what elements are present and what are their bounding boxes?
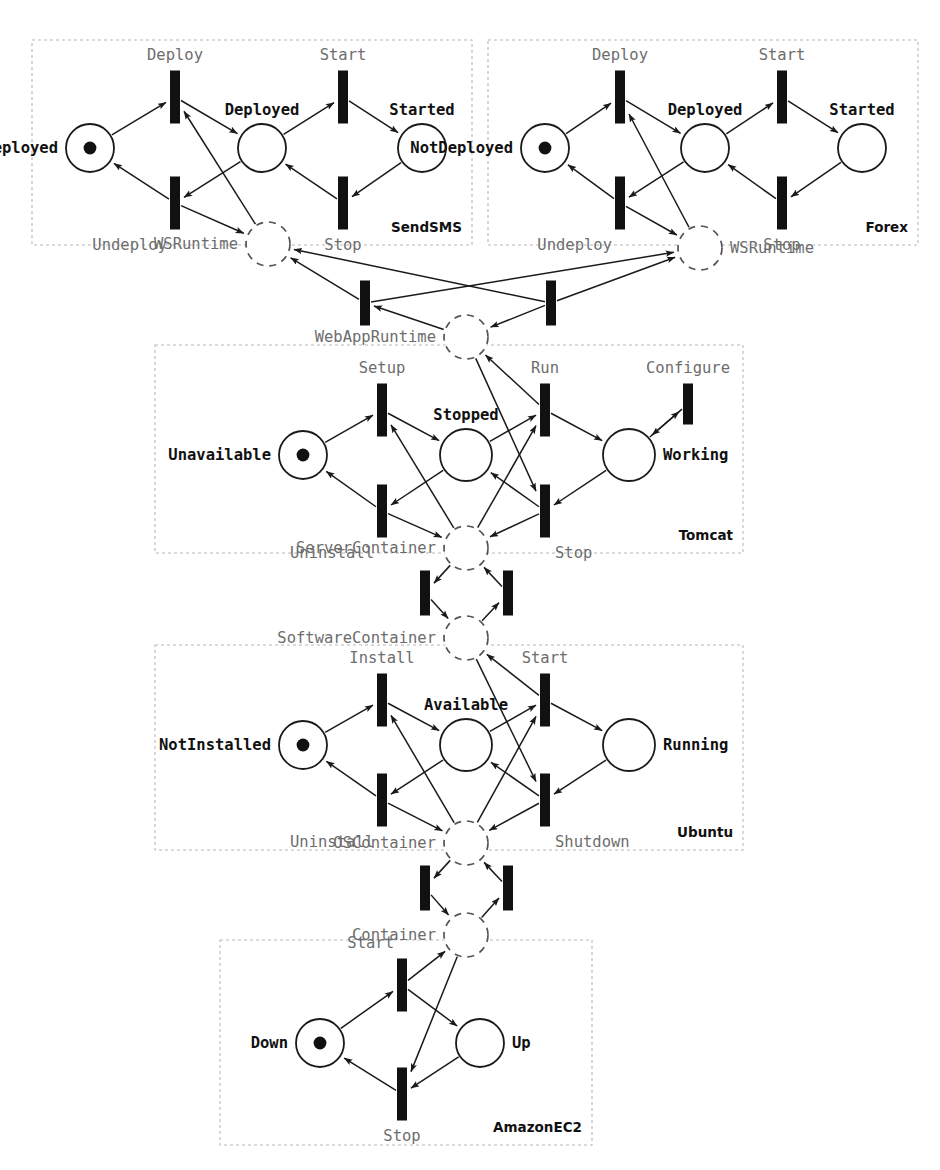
transition-war_right[interactable]	[547, 281, 556, 325]
arc-ub_uninstall-to-ub_notinstalled	[326, 761, 376, 796]
place-fx_started[interactable]	[838, 124, 886, 172]
token-sms_notdeployed	[84, 142, 97, 155]
place-label-sms_notdeployed: NotDeployed	[0, 139, 58, 157]
virtual-place-circle-servercontainer[interactable]	[444, 526, 488, 570]
transition-tc_run[interactable]	[541, 384, 550, 436]
transition-bar-oc_right[interactable]	[504, 866, 513, 910]
transition-bar-sms_start[interactable]	[339, 71, 348, 123]
place-ub_notinstalled[interactable]	[279, 721, 327, 769]
transition-bar-tc_setup[interactable]	[378, 384, 387, 436]
transition-sms_start[interactable]	[339, 71, 348, 123]
arc-sms_notdeployed-to-sms_deploy	[112, 102, 166, 134]
place-servercontainer[interactable]	[444, 526, 488, 570]
transition-sms_undeploy[interactable]	[171, 177, 180, 229]
place-container[interactable]	[444, 913, 488, 957]
arc-fx_undeploy-to-fx_wsruntime	[626, 206, 677, 235]
virtual-place-circle-webappruntime[interactable]	[444, 315, 488, 359]
transition-fx_stop[interactable]	[778, 177, 787, 229]
transition-bar-tc_stop[interactable]	[541, 485, 550, 537]
arc-tc_stopped-to-tc_uninstall	[391, 470, 443, 505]
place-fx_deployed[interactable]	[681, 124, 729, 172]
virtual-place-circle-fx_wsruntime[interactable]	[678, 226, 722, 270]
transition-bar-ub_install[interactable]	[378, 674, 387, 726]
place-sms_notdeployed[interactable]	[66, 124, 114, 172]
place-circle-ub_available[interactable]	[440, 719, 492, 771]
transition-oc_left[interactable]	[421, 866, 430, 910]
transition-sms_stop[interactable]	[339, 177, 348, 229]
place-fx_notdeployed[interactable]	[521, 124, 569, 172]
transition-bar-sms_stop[interactable]	[339, 177, 348, 229]
transition-oc_right[interactable]	[504, 866, 513, 910]
transition-bar-fx_undeploy[interactable]	[616, 177, 625, 229]
place-softwarecontainer[interactable]	[444, 616, 488, 660]
transition-tc_uninstall[interactable]	[378, 485, 387, 537]
place-circle-fx_started[interactable]	[838, 124, 886, 172]
transition-bar-oc_left[interactable]	[421, 866, 430, 910]
transition-tc_setup[interactable]	[378, 384, 387, 436]
transition-sms_deploy[interactable]	[171, 71, 180, 123]
transition-bar-war_right[interactable]	[547, 281, 556, 325]
transition-ub_uninstall[interactable]	[378, 774, 387, 826]
place-circle-tc_stopped[interactable]	[440, 429, 492, 481]
place-label-ec2_up: Up	[512, 1034, 531, 1052]
place-circle-tc_working[interactable]	[603, 429, 655, 481]
transition-bar-sc_left[interactable]	[421, 571, 430, 615]
arc-sms_stop-to-sms_deployed	[286, 164, 337, 199]
transition-bar-sms_undeploy[interactable]	[171, 177, 180, 229]
transition-label-fx_deploy: Deploy	[592, 46, 648, 64]
virtual-place-circle-oscontainer[interactable]	[444, 821, 488, 865]
place-oscontainer[interactable]	[444, 821, 488, 865]
place-tc_stopped[interactable]	[440, 429, 492, 481]
place-sms_deployed[interactable]	[238, 124, 286, 172]
transition-bar-ub_uninstall[interactable]	[378, 774, 387, 826]
transition-bar-ub_shutdown[interactable]	[541, 774, 550, 826]
place-ub_running[interactable]	[603, 719, 655, 771]
arc-sms_wsruntime-to-sms_deploy	[184, 111, 255, 224]
transition-ub_start[interactable]	[541, 674, 550, 726]
place-circle-ub_running[interactable]	[603, 719, 655, 771]
transition-ec2_start[interactable]	[398, 959, 407, 1011]
arc-tc_unavailable-to-tc_setup	[325, 415, 373, 442]
transition-bar-sc_right[interactable]	[504, 571, 513, 615]
transition-bar-tc_uninstall[interactable]	[378, 485, 387, 537]
place-fx_wsruntime[interactable]	[678, 226, 722, 270]
transition-sc_right[interactable]	[504, 571, 513, 615]
transition-fx_start[interactable]	[778, 71, 787, 123]
virtual-place-circle-sms_wsruntime[interactable]	[246, 222, 290, 266]
place-tc_working[interactable]	[603, 429, 655, 481]
transition-bar-tc_run[interactable]	[541, 384, 550, 436]
transition-bar-fx_deploy[interactable]	[616, 71, 625, 123]
transition-bar-fx_stop[interactable]	[778, 177, 787, 229]
transition-label-ec2_stop: Stop	[383, 1127, 420, 1145]
virtual-place-circle-container[interactable]	[444, 913, 488, 957]
transition-ub_shutdown[interactable]	[541, 774, 550, 826]
transition-tc_stop[interactable]	[541, 485, 550, 537]
transition-tc_configure[interactable]	[684, 384, 693, 424]
transition-fx_undeploy[interactable]	[616, 177, 625, 229]
arc-ub_uninstall-to-oscontainer	[388, 803, 442, 831]
place-circle-fx_deployed[interactable]	[681, 124, 729, 172]
transition-bar-ub_start[interactable]	[541, 674, 550, 726]
transition-ub_install[interactable]	[378, 674, 387, 726]
place-circle-sms_deployed[interactable]	[238, 124, 286, 172]
transition-label-sms_start: Start	[320, 46, 367, 64]
place-webappruntime[interactable]	[444, 315, 488, 359]
transition-bar-tc_configure[interactable]	[684, 384, 693, 424]
place-ub_available[interactable]	[440, 719, 492, 771]
transition-bar-ec2_start[interactable]	[398, 959, 407, 1011]
place-circle-ec2_up[interactable]	[456, 1019, 504, 1067]
virtual-place-circle-softwarecontainer[interactable]	[444, 616, 488, 660]
transition-bar-sms_deploy[interactable]	[171, 71, 180, 123]
place-ec2_down[interactable]	[296, 1019, 344, 1067]
place-ec2_up[interactable]	[456, 1019, 504, 1067]
place-tc_unavailable[interactable]	[279, 431, 327, 479]
transition-ec2_stop[interactable]	[398, 1068, 407, 1120]
arc-ub_available-to-ub_uninstall	[391, 760, 443, 794]
place-sms_wsruntime[interactable]	[246, 222, 290, 266]
transition-bar-ec2_stop[interactable]	[398, 1068, 407, 1120]
transition-sc_left[interactable]	[421, 571, 430, 615]
transition-bar-fx_start[interactable]	[778, 71, 787, 123]
transition-bar-war_left[interactable]	[361, 281, 370, 325]
transition-war_left[interactable]	[361, 281, 370, 325]
transition-fx_deploy[interactable]	[616, 71, 625, 123]
